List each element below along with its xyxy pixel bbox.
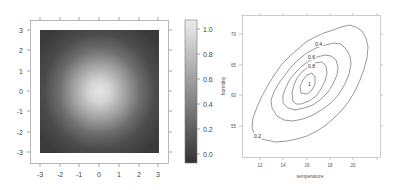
contour-label: 1 bbox=[308, 81, 311, 87]
heatmap-y-tick-labels: 3 2 1 0 -1 -2 -3 bbox=[17, 27, 23, 156]
x-tick-label: -3 bbox=[37, 171, 43, 178]
y-tick-label: -3 bbox=[17, 149, 23, 156]
x-tick-label: 14 bbox=[280, 163, 286, 168]
y-tick-label: -1 bbox=[17, 108, 23, 115]
x-tick-label: 16 bbox=[304, 163, 310, 168]
x-tick-label: 20 bbox=[350, 163, 356, 168]
x-tick-label: -1 bbox=[76, 171, 82, 178]
contour-label: 0.6 bbox=[308, 54, 315, 60]
contour-x-tick-labels: 12 14 16 18 20 bbox=[257, 163, 356, 168]
contour-label: 0.2 bbox=[254, 133, 261, 139]
y-tick-label: 70 bbox=[231, 32, 237, 37]
y-tick-label: 1 bbox=[19, 68, 23, 75]
y-tick-label: 60 bbox=[231, 93, 237, 98]
contour-y-tick-labels: 70 65 60 55 bbox=[231, 32, 237, 129]
x-tick-label: 2 bbox=[137, 171, 141, 178]
y-tick-label: -2 bbox=[17, 129, 23, 136]
heatmap-panel: -3 -2 -1 0 1 2 3 3 2 1 0 -1 -2 -3 bbox=[17, 17, 172, 178]
figure: -3 -2 -1 0 1 2 3 3 2 1 0 -1 -2 -3 bbox=[0, 0, 394, 190]
contour-panel: 70 65 60 55 12 14 16 18 20 temperature h… bbox=[220, 13, 383, 179]
colorbar-tick-label: 0.2 bbox=[203, 126, 213, 133]
y-tick-label: 55 bbox=[231, 124, 237, 129]
x-tick-label: 1 bbox=[117, 171, 121, 178]
y-tick-label: 2 bbox=[19, 47, 23, 54]
y-axis-label: humidity bbox=[220, 76, 226, 95]
contour-label: 0.4 bbox=[315, 41, 322, 47]
colorbar-tick-label: 0.0 bbox=[203, 151, 213, 158]
contour-frame bbox=[243, 16, 381, 158]
x-tick-label: 3 bbox=[156, 171, 160, 178]
y-tick-label: 65 bbox=[231, 63, 237, 68]
colorbar-tick-label: 0.6 bbox=[203, 76, 213, 83]
colorbar: 1.0 0.8 0.6 0.4 0.2 0.0 bbox=[185, 20, 213, 163]
colorbar-gradient bbox=[185, 20, 197, 163]
colorbar-tick-label: 1.0 bbox=[203, 26, 213, 33]
y-tick-label: 0 bbox=[19, 88, 23, 95]
x-axis-label: temperature bbox=[297, 173, 324, 179]
x-tick-label: 18 bbox=[327, 163, 333, 168]
colorbar-tick-label: 0.4 bbox=[203, 101, 213, 108]
colorbar-tick-label: 0.8 bbox=[203, 51, 213, 58]
x-tick-label: 0 bbox=[97, 171, 101, 178]
contour-label: 0.8 bbox=[308, 63, 315, 69]
heatmap-field bbox=[40, 30, 159, 153]
x-tick-label: 12 bbox=[257, 163, 263, 168]
heatmap-x-tick-labels: -3 -2 -1 0 1 2 3 bbox=[37, 171, 160, 178]
x-tick-label: -2 bbox=[57, 171, 63, 178]
y-tick-label: 3 bbox=[19, 27, 23, 34]
